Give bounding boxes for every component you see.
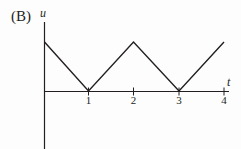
figure-panel-b: (B) u t 1 2 3 4: [0, 0, 241, 149]
plot-area: [0, 0, 241, 149]
x-tick-label-3: 3: [171, 94, 187, 106]
x-tick-label-4: 4: [216, 94, 232, 106]
x-tick-label-1: 1: [81, 94, 97, 106]
waveform-curve: [45, 42, 225, 91]
x-tick-label-2: 2: [126, 94, 142, 106]
